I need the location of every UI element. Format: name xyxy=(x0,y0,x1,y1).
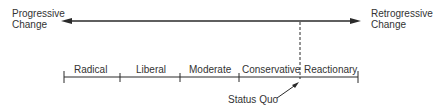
segment-liberal: Liberal xyxy=(136,64,166,75)
arrow-left-head-icon xyxy=(61,18,72,24)
segment-radical: Radical xyxy=(74,64,107,75)
segment-reactionary: Reactionary xyxy=(304,64,357,75)
status-quo-label: Status Quo xyxy=(228,94,278,105)
segment-moderate: Moderate xyxy=(189,64,231,75)
double-arrow xyxy=(61,18,361,24)
segment-conservative: Conservative xyxy=(242,64,300,75)
status-quo-pointer xyxy=(277,82,299,98)
diagram-lines xyxy=(0,0,440,110)
arrow-right-head-icon xyxy=(350,18,361,24)
